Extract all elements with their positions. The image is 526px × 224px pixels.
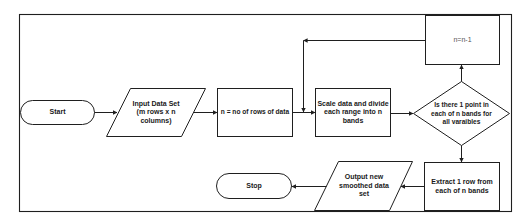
input-label: Input Data Set (m rows x n columns) xyxy=(118,88,194,137)
start-label: Start xyxy=(20,100,95,125)
extract-label: Extract 1 row from each of n bands xyxy=(424,162,500,211)
scale-label: Scale data and divide each range into n … xyxy=(315,88,391,137)
decision-label: Is there 1 point in each of n bands for … xyxy=(425,96,498,132)
stop-label: Stop xyxy=(216,173,292,199)
n-rows-label: n = no of rows of data xyxy=(217,88,293,137)
decrement-label: n=n-1 xyxy=(425,15,500,65)
output-label: Output new smoothed data set xyxy=(326,161,402,211)
